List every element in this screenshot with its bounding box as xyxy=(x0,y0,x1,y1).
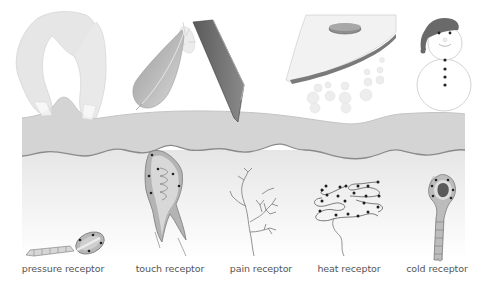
iron-stimulus xyxy=(286,15,396,113)
feather-stimulus xyxy=(133,22,196,110)
label-touch-receptor: touch receptor xyxy=(136,263,205,274)
snowman-stimulus xyxy=(417,18,471,111)
label-pain-receptor: pain receptor xyxy=(230,263,292,274)
skin-receptors-diagram: pressure receptor touch receptor pain re… xyxy=(0,0,488,290)
label-pressure-receptor: pressure receptor xyxy=(22,263,104,274)
knife-stimulus xyxy=(193,20,244,122)
label-cold-receptor: cold receptor xyxy=(406,263,468,274)
label-heat-receptor: heat receptor xyxy=(317,263,380,274)
